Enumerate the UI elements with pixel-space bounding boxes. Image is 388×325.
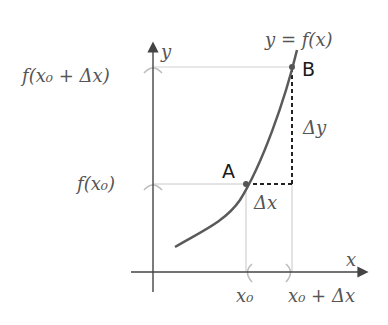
x-axis-label: x — [346, 249, 356, 270]
x-tick-right-label: x₀ + Δx — [288, 285, 355, 306]
y-tick-bottom-label: f(x₀) — [75, 173, 115, 194]
point-a — [243, 181, 249, 187]
diagram-canvas: y = f(x) y x A B Δx Δy f(x₀ + Δx) f(x₀) … — [0, 0, 388, 325]
point-b-label: B — [302, 58, 315, 80]
point-a-label: A — [222, 160, 235, 182]
point-b — [289, 64, 295, 70]
delta-y-label: Δy — [302, 117, 327, 138]
curve-label: y = f(x) — [264, 29, 333, 50]
delta-x-label: Δx — [253, 192, 277, 213]
function-curve — [175, 50, 297, 247]
tick-brackets — [144, 68, 291, 282]
y-tick-top-label: f(x₀ + Δx) — [20, 65, 110, 86]
x-tick-left-label: x₀ — [236, 285, 253, 306]
y-axis-label: y — [160, 41, 172, 62]
